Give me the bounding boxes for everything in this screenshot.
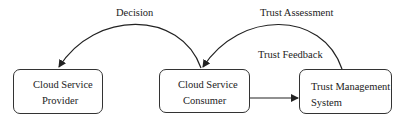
decision-label: Decision <box>116 7 153 18</box>
provider-label-line1: Cloud Service <box>33 77 93 92</box>
consumer-label-line2: Consumer <box>183 93 226 108</box>
trust-assessment-arrow <box>203 24 342 69</box>
decision-arrow <box>59 24 201 68</box>
trust-mgmt-label-line2: System <box>311 95 342 110</box>
cloud-service-consumer-node: Cloud Service Consumer <box>159 69 250 113</box>
trust-assessment-label: Trust Assessment <box>260 7 333 18</box>
trust-mgmt-label-line1: Trust Management <box>311 79 390 94</box>
trust-management-system-node: Trust Management System <box>299 69 392 114</box>
cloud-service-provider-node: Cloud Service Provider <box>13 69 103 114</box>
trust-feedback-label: Trust Feedback <box>258 49 323 60</box>
provider-label-line2: Provider <box>42 93 78 108</box>
consumer-label-line1: Cloud Service <box>178 77 238 92</box>
